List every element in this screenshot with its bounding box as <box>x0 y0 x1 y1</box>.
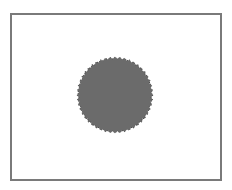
figure-canvas <box>0 0 232 190</box>
serrated-circle-shape <box>76 55 154 135</box>
serrated-circle-icon <box>76 55 154 135</box>
